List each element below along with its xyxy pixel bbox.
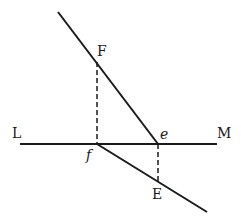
diagram-canvas: L M F E f e <box>0 0 241 222</box>
label-E: E <box>152 186 162 202</box>
incident-line-to-e <box>58 12 158 144</box>
geometry-diagram: L M F E f e <box>0 0 241 222</box>
label-e: e <box>160 126 168 142</box>
label-F: F <box>97 43 107 59</box>
label-f: f <box>85 147 94 163</box>
label-M: M <box>217 125 231 141</box>
label-L: L <box>12 125 21 141</box>
